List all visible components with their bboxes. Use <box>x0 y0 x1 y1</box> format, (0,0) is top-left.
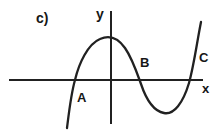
y-axis-label: y <box>96 7 104 21</box>
point-label-a: A <box>77 91 86 104</box>
graph-figure: c) y x A B C <box>0 0 219 130</box>
x-axis-label: x <box>202 82 209 95</box>
graph-canvas <box>0 0 219 130</box>
point-label-c: C <box>199 51 208 64</box>
figure-background <box>0 0 219 130</box>
point-label-b: B <box>140 56 149 69</box>
part-label: c) <box>36 11 48 25</box>
